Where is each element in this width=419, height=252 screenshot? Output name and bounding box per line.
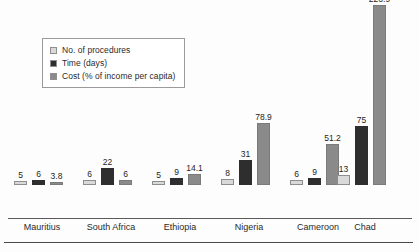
category-label: Nigeria (235, 222, 264, 232)
bar-slot: 14.1 (188, 0, 201, 185)
bar (355, 126, 368, 185)
bar (308, 178, 321, 185)
bar (83, 180, 96, 185)
bar-slot: 22 (101, 0, 114, 185)
bar-slot: 3.8 (50, 0, 63, 185)
bar-value-label: 6 (87, 169, 92, 179)
bar-slot: 226.9 (373, 0, 386, 185)
bar-value-label: 5 (18, 170, 23, 180)
category-label: Mauritius (24, 222, 61, 232)
bar-group: 83178.9 (221, 0, 270, 185)
bar-slot: 8 (221, 0, 234, 185)
bar-value-label: 31 (241, 149, 250, 159)
category-label: South Africa (87, 222, 136, 232)
bar-value-label: 22 (103, 157, 112, 167)
bar-slot: 6 (290, 0, 303, 185)
bar-value-label: 8 (225, 168, 230, 178)
bar-value-label: 3.8 (51, 171, 63, 181)
bar-slot: 6 (83, 0, 96, 185)
bar-slot: 6 (32, 0, 45, 185)
bar (152, 181, 165, 185)
bar-group: 1375226.9 (337, 0, 386, 185)
bar-value-label: 9 (312, 167, 317, 177)
category-label: Chad (354, 222, 376, 232)
bar (119, 180, 132, 185)
bar-slot: 78.9 (257, 0, 270, 185)
bar-slot: 9 (170, 0, 183, 185)
bar-slot: 5 (14, 0, 27, 185)
bar-value-label: 226.9 (369, 0, 390, 4)
bar-value-label: 9 (174, 167, 179, 177)
bar-value-label: 75 (357, 115, 366, 125)
bar-slot: 31 (239, 0, 252, 185)
bar-slot: 75 (355, 0, 368, 185)
bar (50, 182, 63, 185)
bar-value-label: 6 (36, 169, 41, 179)
bar (170, 178, 183, 185)
bar-value-label: 6 (123, 169, 128, 179)
bar-slot: 5 (152, 0, 165, 185)
bar-value-label: 78.9 (255, 112, 272, 122)
bar-value-label: 14.1 (186, 163, 203, 173)
plot-area: 563.862265914.183178.96951.21375226.9 Ma… (0, 0, 419, 219)
bar (188, 174, 201, 185)
footer-divider (4, 242, 413, 243)
bar (101, 168, 114, 185)
bar-value-label: 13 (339, 164, 348, 174)
bar (257, 123, 270, 185)
bar-group: 563.8 (14, 0, 63, 185)
bar-slot: 9 (308, 0, 321, 185)
bar-value-label: 6 (294, 169, 299, 179)
bar (14, 181, 27, 185)
x-axis-line (8, 218, 412, 219)
bar (221, 179, 234, 185)
bar (32, 180, 45, 185)
bar-group: 6951.2 (290, 0, 339, 185)
bar (337, 175, 350, 185)
category-label: Ethiopia (164, 222, 197, 232)
bar-chart: No. of procedures Time (days) Cost (% of… (0, 0, 419, 252)
bar-value-label: 5 (156, 170, 161, 180)
bar (373, 5, 386, 185)
bar (239, 160, 252, 185)
category-label: Cameroon (297, 222, 339, 232)
bar (290, 180, 303, 185)
bar-slot: 6 (119, 0, 132, 185)
bar-group: 5914.1 (152, 0, 201, 185)
bar-slot: 13 (337, 0, 350, 185)
bar-group: 6226 (83, 0, 132, 185)
